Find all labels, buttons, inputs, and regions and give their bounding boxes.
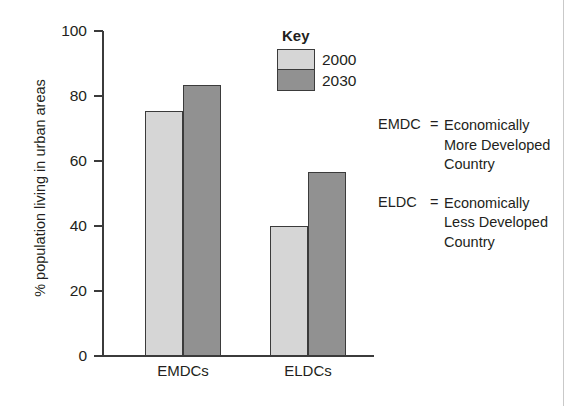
definition-eldc-text: Economically Less Developed Country — [444, 194, 563, 253]
legend-label-2030: 2030 — [322, 73, 356, 89]
page-border-right — [563, 0, 564, 406]
y-tick-label: 100 — [45, 23, 87, 39]
legend-label-2000: 2000 — [322, 52, 356, 68]
y-tick-label: 0 — [45, 348, 87, 364]
definition-emdc-equals: = — [430, 116, 444, 175]
y-tick-mark — [94, 290, 103, 292]
legend-swatch-2000 — [277, 49, 315, 70]
definition-eldc: ELDC = Economically Less Developed Count… — [378, 194, 563, 253]
abbreviation-definitions: EMDC = Economically More Developed Count… — [378, 116, 563, 271]
bar-eldcs-2030 — [308, 172, 346, 356]
legend-item-2000: 2000 — [277, 49, 397, 70]
definition-emdc: EMDC = Economically More Developed Count… — [378, 116, 563, 175]
definition-eldc-equals: = — [430, 194, 444, 253]
bar-emdcs-2030 — [183, 85, 221, 356]
x-label-emdcs: EMDCs — [138, 362, 228, 379]
definition-eldc-abbr: ELDC — [378, 194, 430, 253]
definition-eldc-line-1: Economically — [444, 194, 563, 214]
y-axis-line — [102, 31, 104, 356]
legend-swatch-2030 — [277, 70, 315, 91]
bar-emdcs-2000 — [145, 111, 183, 356]
y-tick-mark — [94, 355, 103, 357]
y-tick-label: 40 — [45, 218, 87, 234]
y-tick-label: 80 — [45, 88, 87, 104]
legend-title: Key — [282, 27, 397, 44]
legend-item-2030: 2030 — [277, 70, 397, 91]
definition-emdc-abbr: EMDC — [378, 116, 430, 175]
x-label-eldcs: ELDCs — [263, 362, 353, 379]
y-tick-label: 20 — [45, 283, 87, 299]
definition-emdc-line-1: Economically — [444, 116, 563, 136]
chart-page: % population living in urban areas 02040… — [0, 0, 580, 406]
y-tick-mark — [94, 30, 103, 32]
definition-emdc-line-2: More Developed — [444, 136, 563, 156]
chart-legend: Key 2000 2030 — [277, 27, 397, 91]
definition-eldc-line-3: Country — [444, 233, 563, 253]
definition-eldc-line-2: Less Developed — [444, 213, 563, 233]
y-tick-mark — [94, 160, 103, 162]
y-tick-label: 60 — [45, 153, 87, 169]
y-tick-mark — [94, 225, 103, 227]
y-tick-mark — [94, 95, 103, 97]
definition-emdc-line-3: Country — [444, 155, 563, 175]
bar-eldcs-2000 — [270, 226, 308, 356]
definition-emdc-text: Economically More Developed Country — [444, 116, 563, 175]
